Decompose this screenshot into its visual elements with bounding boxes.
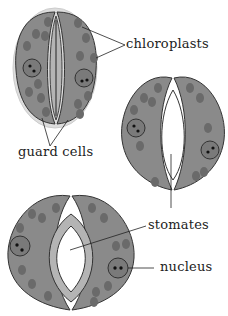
label-nucleus: nucleus [160,259,212,274]
closed-stomate [13,8,98,128]
label-guard-cells: guard cells [18,144,93,159]
open-stomate [8,195,134,310]
label-stomates: stomates [148,217,209,232]
label-chloroplasts: chloroplasts [126,36,209,51]
partially-open-stomate [122,77,225,190]
